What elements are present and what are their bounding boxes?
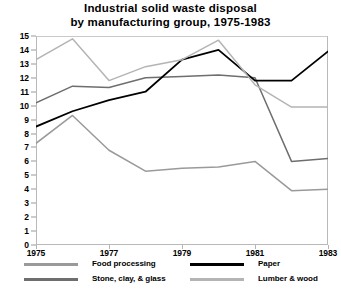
series-lines	[36, 36, 328, 245]
y-tick-label: 4	[24, 184, 29, 194]
y-tick-label: 5	[24, 170, 29, 180]
series-line-food-processing	[36, 115, 328, 190]
y-axis: 0123456789101112131415	[0, 36, 36, 245]
y-tick-label: 9	[24, 115, 29, 125]
y-tick-label: 2	[24, 212, 29, 222]
legend-label-lumber-wood: Lumber & wood	[258, 273, 318, 285]
y-tick-label: 14	[20, 45, 29, 55]
y-tick-label: 7	[24, 142, 29, 152]
x-tick-label: 1983	[319, 248, 338, 258]
y-tick-label: 11	[20, 87, 29, 97]
y-tick-label: 13	[20, 59, 29, 69]
plot-area	[36, 36, 328, 245]
legend-swatch-stone-clay-glass	[24, 278, 78, 281]
chart-legend: Food processing Stone, clay, & glass Pap…	[0, 258, 341, 289]
x-tick-label: 1977	[100, 248, 119, 258]
x-tick-label: 1979	[173, 248, 192, 258]
y-tick-label: 8	[24, 129, 29, 139]
chart-title-line-1: Industrial solid waste disposal	[0, 2, 341, 16]
y-tick-label: 1	[24, 226, 29, 236]
legend-swatch-lumber-wood	[190, 278, 244, 281]
legend-swatch-paper	[190, 263, 244, 266]
x-tick-label: 1975	[27, 248, 46, 258]
y-tick-label: 3	[24, 198, 29, 208]
series-line-lumber-wood	[36, 39, 328, 107]
series-line-stone-clay-glass	[36, 75, 328, 161]
x-tick-label: 1981	[246, 248, 265, 258]
y-tick-label: 10	[20, 101, 29, 111]
chart-title-line-2: by manufacturing group, 1975-1983	[0, 16, 341, 30]
legend-label-stone-clay-glass: Stone, clay, & glass	[92, 273, 166, 285]
legend-label-food-processing: Food processing	[92, 258, 156, 270]
y-tick-label: 12	[20, 73, 29, 83]
legend-swatch-food-processing	[24, 263, 78, 266]
chart-title: Industrial solid waste disposal by manuf…	[0, 2, 341, 29]
legend-label-paper: Paper	[258, 258, 280, 270]
y-tick-label: 6	[24, 156, 29, 166]
chart-container: Industrial solid waste disposal by manuf…	[0, 0, 341, 289]
y-tick-label: 15	[20, 31, 29, 41]
series-line-paper	[36, 50, 328, 127]
